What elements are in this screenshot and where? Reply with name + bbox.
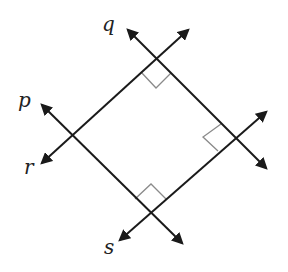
line-r — [42, 30, 188, 163]
line-s — [120, 112, 266, 240]
label-q: q — [102, 14, 115, 34]
line-p — [42, 105, 182, 243]
label-p: p — [18, 90, 31, 110]
label-s: s — [104, 237, 114, 257]
right-angle-right — [203, 124, 221, 151]
diagram-canvas: q p r s — [0, 0, 288, 272]
right-angle-bottom — [135, 184, 166, 199]
line-diagram — [0, 0, 288, 272]
line-q — [128, 30, 266, 168]
right-angle-marks — [135, 72, 221, 199]
label-r: r — [24, 157, 34, 177]
right-angle-top — [141, 72, 171, 88]
